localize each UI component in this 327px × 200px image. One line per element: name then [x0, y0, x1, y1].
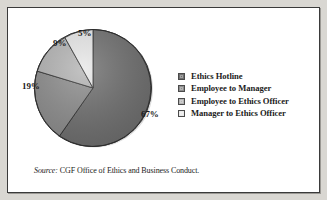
legend-label-1: Employee to Manager: [191, 83, 271, 94]
legend-item-employee-to-ethics-officer[interactable]: Employee to Ethics Officer: [178, 95, 313, 107]
legend-swatch-icon-1: [178, 85, 185, 92]
legend-item-manager-to-ethics-officer[interactable]: Manager to Ethics Officer: [178, 108, 313, 120]
source-text: CGF Office of Ethics and Business Conduc…: [60, 166, 199, 175]
chart-legend: Ethics Hotline Employee to Manager Emplo…: [178, 70, 313, 120]
source-keyword: Source:: [34, 166, 58, 175]
chart-figure-frame: 67% 19% 9% 5% Ethics Hotline Employee to…: [7, 7, 320, 193]
pie-chart-svg: [31, 26, 155, 150]
pie-data-label-3: 5%: [78, 28, 91, 38]
legend-label-2: Employee to Ethics Officer: [191, 96, 289, 107]
pie-chart: [31, 26, 155, 150]
legend-swatch-icon-3: [178, 110, 185, 117]
pie-chart-plot-area: 67% 19% 9% 5% Ethics Hotline Employee to…: [8, 8, 319, 158]
pie-data-label-0: 67%: [141, 109, 159, 119]
legend-label-3: Manager to Ethics Officer: [191, 108, 286, 119]
legend-item-ethics-hotline[interactable]: Ethics Hotline: [178, 70, 313, 82]
legend-swatch-icon-2: [178, 98, 185, 105]
legend-item-employee-to-manager[interactable]: Employee to Manager: [178, 83, 313, 95]
source-note: Source: CGF Office of Ethics and Busines…: [34, 166, 199, 175]
legend-label-0: Ethics Hotline: [191, 71, 243, 82]
pie-data-label-2: 9%: [53, 38, 66, 48]
pie-data-label-1: 19%: [22, 81, 40, 91]
legend-swatch-icon-0: [178, 73, 185, 80]
